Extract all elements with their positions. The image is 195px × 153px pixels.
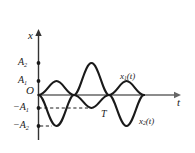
y-tick-label-neg-A2: −A2 (13, 119, 29, 131)
tick-A2 (37, 61, 41, 65)
x-tick-label-T: T (101, 108, 107, 119)
y-tick-label-A2: A2 (18, 56, 27, 68)
tick-neg-A2 (37, 124, 41, 128)
t-axis-label: t (177, 96, 180, 108)
vertical-axis (35, 29, 41, 140)
x-axis-arrowhead (35, 29, 41, 36)
tick-A1 (37, 79, 41, 83)
waveform-figure: x t O A2 A1 −A1 −A2 T x1(t) x2(t) (0, 0, 195, 153)
y-tick-label-neg-A1: −A1 (13, 101, 29, 113)
curve-label-x1: x1(t) (120, 71, 135, 81)
plot-canvas (0, 0, 195, 153)
y-tick-label-A1: A1 (18, 74, 27, 86)
curve-label-x2: x2(t) (139, 116, 154, 126)
origin-label: O (26, 84, 34, 96)
x-axis-label: x (28, 29, 33, 41)
